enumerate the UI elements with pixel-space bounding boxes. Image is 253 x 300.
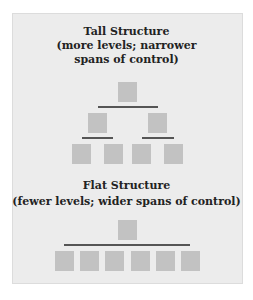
- tall-bottom-box: [164, 144, 183, 164]
- flat-bottom-box: [80, 251, 99, 271]
- tall-structure-subtitle-2: spans of control): [0, 53, 253, 67]
- flat-top-box: [118, 220, 137, 240]
- tall-mid-box-left: [88, 113, 107, 133]
- flat-structure-title: Flat Structure: [0, 179, 253, 193]
- tall-level2-connector-left: [82, 137, 113, 139]
- flat-bottom-box: [55, 251, 74, 271]
- tall-bottom-box: [104, 144, 123, 164]
- tall-structure-subtitle-1: (more levels; narrower: [0, 39, 253, 53]
- flat-bottom-box: [156, 251, 175, 271]
- tall-level2-connector-right: [142, 137, 174, 139]
- flat-bottom-box: [131, 251, 150, 271]
- flat-bottom-box: [181, 251, 200, 271]
- tall-bottom-box: [132, 144, 151, 164]
- tall-bottom-box: [72, 144, 91, 164]
- tall-structure-title: Tall Structure: [0, 25, 253, 39]
- flat-bottom-box: [105, 251, 124, 271]
- tall-top-box: [118, 82, 137, 102]
- tall-mid-box-right: [148, 113, 167, 133]
- tall-level1-connector: [98, 106, 158, 108]
- flat-structure-subtitle: (fewer levels; wider spans of control): [0, 195, 253, 209]
- flat-connector: [64, 244, 190, 246]
